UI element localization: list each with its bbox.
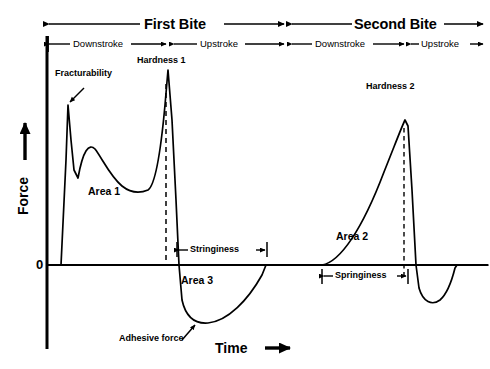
adhesive-force-pointer-arrow xyxy=(182,325,195,340)
peak-label-hardness-1: Hardness 1 xyxy=(137,56,186,65)
y-axis-zero-tick-label: 0 xyxy=(36,258,43,271)
bracket-label-upstroke-1: Upstroke xyxy=(200,39,238,49)
bracket-label-springiness: Springiness xyxy=(335,271,387,280)
fracturability-pointer-arrow xyxy=(70,88,84,102)
peak-label-hardness-2: Hardness 2 xyxy=(366,82,415,91)
y-axis-label: Force xyxy=(16,177,30,215)
area-label-area-1: Area 1 xyxy=(88,186,120,197)
x-axis-label: Time xyxy=(215,341,247,355)
bracket-label-stringiness: Stringiness xyxy=(190,245,239,254)
bracket-label-downstroke-2: Downstroke xyxy=(315,39,365,49)
bracket-label-downstroke-1: Downstroke xyxy=(73,39,123,49)
peak-label-fracturability: Fracturability xyxy=(55,69,112,78)
bracket-label-upstroke-2: Upstroke xyxy=(421,39,459,49)
tpa-diagram: First Bite Second Bite Downstroke Upstro… xyxy=(0,0,490,369)
tpa-curve-canvas xyxy=(0,0,490,369)
annotation-label-adhesive-force: Adhesive force xyxy=(119,334,184,343)
bracket-label-first-bite: First Bite xyxy=(144,17,206,32)
area-label-area-2: Area 2 xyxy=(336,231,368,242)
area-label-area-3: Area 3 xyxy=(181,275,213,286)
bracket-label-second-bite: Second Bite xyxy=(354,17,437,32)
